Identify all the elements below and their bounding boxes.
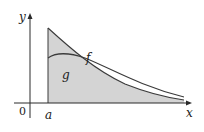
g-label: g bbox=[62, 68, 70, 82]
shaded-region bbox=[48, 28, 184, 103]
a-label: a bbox=[45, 108, 52, 122]
x-axis-arrow-icon bbox=[186, 101, 192, 106]
figure-canvas: y x 0 a f g bbox=[0, 0, 204, 132]
y-axis-label: y bbox=[18, 10, 26, 24]
y-axis-arrow-icon bbox=[28, 13, 33, 19]
f-label: f bbox=[85, 51, 93, 65]
origin-label: 0 bbox=[19, 105, 26, 118]
x-axis-label: x bbox=[186, 106, 193, 120]
